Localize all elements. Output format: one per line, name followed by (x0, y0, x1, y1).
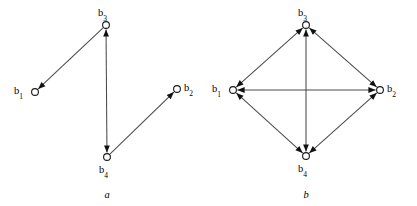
node-label-subscript: 3 (303, 14, 307, 23)
node-b2[interactable] (377, 87, 384, 94)
panel-a-caption: a (97, 190, 117, 201)
arrowhead-to-b1 (237, 87, 244, 93)
edge-b4-b1 (236, 93, 302, 153)
graph-b-svg (209, 0, 417, 206)
edge-b4-b2 (110, 92, 174, 154)
node-label-subscript: 4 (303, 170, 307, 179)
node-label-b2: b2 (387, 84, 396, 97)
node-label-b4: b4 (99, 165, 108, 178)
node-label-subscript: 2 (392, 90, 396, 99)
arrowhead-to-b3 (103, 29, 109, 36)
edge-b2-b4 (309, 93, 376, 153)
node-b2[interactable] (174, 86, 181, 93)
panel-b-caption: b (296, 190, 316, 201)
node-label-subscript: 4 (104, 171, 108, 180)
node-label-subscript: 3 (103, 14, 107, 23)
node-label-subscript: 2 (189, 89, 193, 98)
node-label-b1: b1 (14, 86, 23, 99)
node-label-subscript: 1 (19, 92, 23, 101)
graph-panel-b: b b1b2b3b4 (209, 0, 417, 206)
arrowhead-to-b3 (303, 29, 309, 36)
edge-b1-b3 (236, 28, 302, 87)
node-b4[interactable] (104, 154, 111, 161)
node-b4[interactable] (303, 153, 310, 160)
node-label-b3: b3 (298, 8, 307, 21)
arrowhead-to-b4 (104, 145, 110, 152)
node-label-b4: b4 (298, 164, 307, 177)
graph-panel-a: a b1b2b3b4 (0, 0, 209, 206)
edge-b3-b4 (106, 29, 107, 152)
edge-b3-b1 (38, 28, 103, 89)
node-label-b3: b3 (98, 8, 107, 21)
node-label-b2: b2 (184, 83, 193, 96)
node-b1[interactable] (230, 87, 237, 94)
edge-b3-b2 (309, 28, 376, 87)
node-label-subscript: 1 (217, 90, 221, 99)
arrowhead-to-b4 (303, 144, 309, 151)
figure-canvas: a b1b2b3b4 b b1b2b3b4 (0, 0, 417, 206)
arrowhead-to-b2 (368, 87, 375, 93)
node-b1[interactable] (32, 89, 39, 96)
node-label-b1: b1 (212, 84, 221, 97)
